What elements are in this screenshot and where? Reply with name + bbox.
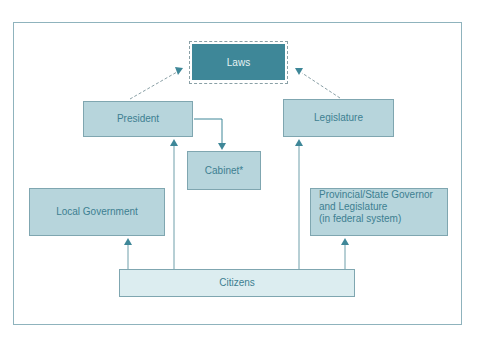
node-provincial-line2: and Legislature [319, 201, 387, 213]
node-laws-label: Laws [227, 57, 250, 68]
arrowhead-icon [295, 68, 303, 75]
node-president: President [83, 101, 193, 137]
arrowhead-icon [175, 67, 183, 75]
node-citizens: Citizens [119, 269, 355, 297]
node-citizens-label: Citizens [219, 277, 255, 289]
node-legislature-label: Legislature [314, 112, 363, 124]
node-legislature: Legislature [283, 99, 394, 137]
node-president-label: President [117, 113, 159, 125]
node-cabinet: Cabinet* [187, 151, 261, 190]
node-provincial-line1: Provincial/State Governor [319, 189, 433, 201]
node-local-government: Local Government [29, 188, 165, 236]
node-local-government-label: Local Government [56, 206, 138, 218]
node-laws: Laws [192, 44, 285, 80]
node-cabinet-label: Cabinet* [205, 165, 243, 177]
node-provincial: Provincial/State Governor and Legislatur… [310, 188, 448, 236]
node-provincial-line3: (in federal system) [319, 213, 401, 225]
